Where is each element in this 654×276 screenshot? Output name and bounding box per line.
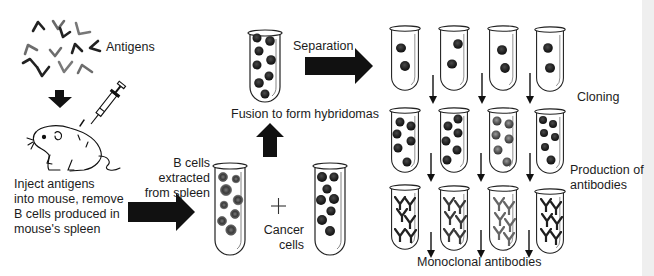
antigens-label: Antigens [106, 40, 155, 55]
inject-step-label: Inject antigens into mouse, remove B cel… [14, 177, 124, 237]
cancer-line-2: cells [258, 238, 304, 253]
inject-line-3: B cells produced in [14, 207, 124, 222]
inject-line-2: into mouse, remove [14, 192, 124, 207]
syringe-icon [87, 81, 126, 127]
b-cells-line-2: extracted [140, 171, 210, 186]
up-block-arrow-icon [256, 123, 284, 157]
hybridoma-tube [248, 30, 282, 102]
down-block-arrow-icon [48, 90, 72, 108]
cloning-label: Cloning [577, 90, 619, 105]
b-cells-line-3: from spleen [140, 186, 210, 201]
inject-line-1: Inject antigens [14, 177, 124, 192]
separated-tubes-row [390, 26, 565, 91]
antigen-cluster [23, 21, 100, 76]
monoclonal-antibody-diagram: Antigens Inject antigens into mouse, rem… [0, 0, 654, 276]
production-line-2: antibodies [570, 178, 644, 193]
separation-label: Separation [293, 39, 353, 54]
inject-line-4: mouse's spleen [14, 222, 124, 237]
b-cells-tube [213, 163, 247, 255]
b-cells-line-1: B cells [140, 156, 210, 171]
cancer-cells-label: Cancer cells [258, 223, 304, 253]
production-line-1: Production of [570, 163, 644, 178]
monoclonal-antibodies-label: Monoclonal antibodies [417, 255, 541, 270]
fusion-label: Fusion to form hybridomas [231, 107, 379, 122]
antibody-tubes-row [390, 185, 565, 253]
cancer-line-1: Cancer [258, 223, 304, 238]
mouse-icon [27, 120, 120, 171]
cloned-tubes-row [390, 108, 565, 173]
plus-icon [271, 198, 286, 214]
b-cells-label: B cells extracted from spleen [140, 156, 210, 201]
production-label: Production of antibodies [570, 163, 644, 193]
cancer-cells-tube [313, 163, 347, 255]
